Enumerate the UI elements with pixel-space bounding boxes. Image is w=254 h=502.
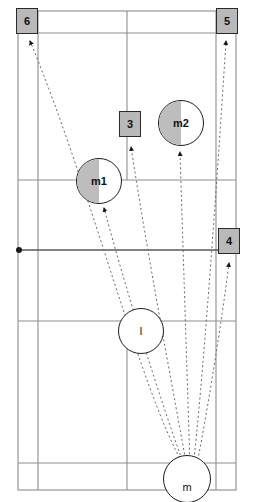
player-circle-m[interactable]: m — [163, 455, 211, 502]
court-diagram: 6 5 3 4 m1 m2 l m — [0, 0, 254, 502]
shot-trajectories — [30, 41, 229, 469]
trajectory-to-m2 — [180, 152, 190, 468]
player-circle-m2[interactable]: m2 — [158, 100, 204, 146]
court-lines — [0, 0, 254, 502]
target-label-4: 4 — [226, 235, 232, 246]
player-label-m2: m2 — [173, 118, 189, 129]
target-label-6: 6 — [24, 15, 30, 26]
net-line — [16, 247, 238, 253]
player-circle-m1[interactable]: m1 — [76, 158, 122, 204]
player-label-l: l — [140, 326, 142, 337]
target-square-4[interactable]: 4 — [218, 228, 240, 254]
trajectory-to-5 — [193, 41, 226, 468]
target-square-6[interactable]: 6 — [16, 8, 38, 34]
target-square-3[interactable]: 3 — [119, 111, 141, 137]
trajectory-to-4 — [196, 263, 229, 469]
player-circle-l[interactable]: l — [118, 308, 164, 354]
player-label-m1: m1 — [91, 176, 107, 187]
target-square-5[interactable]: 5 — [216, 8, 238, 34]
player-label-m: m — [182, 482, 191, 493]
target-label-5: 5 — [224, 15, 230, 26]
target-label-3: 3 — [127, 118, 133, 129]
